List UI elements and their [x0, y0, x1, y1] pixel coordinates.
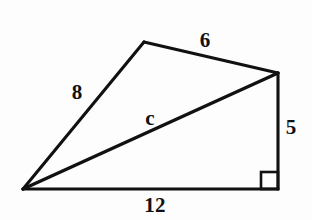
- figure-canvas: [0, 0, 312, 220]
- edge-side-8: [23, 42, 144, 189]
- label-side-6: 6: [200, 30, 211, 51]
- edge-diagonal-c: [23, 73, 278, 189]
- label-side-8: 8: [72, 82, 83, 103]
- right-angle-marker: [261, 172, 278, 189]
- label-side-5: 5: [286, 117, 297, 138]
- geometry-figure: 8 6 c 5 12: [0, 0, 312, 220]
- edge-side-6: [144, 42, 278, 73]
- label-side-12: 12: [144, 195, 165, 216]
- label-diagonal-c: c: [145, 108, 155, 129]
